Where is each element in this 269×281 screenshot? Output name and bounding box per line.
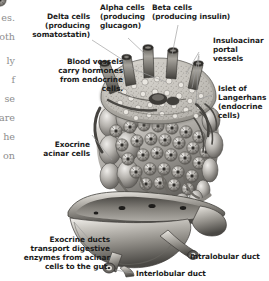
label-delta-cells: Delta cells (producing somatostatin) — [8, 12, 90, 39]
label-exocrine-ducts: Exocrine ducts transport digestive enzym… — [0, 235, 110, 271]
pancreas-figure: es. oth ly f se are he on — [0, 0, 269, 281]
label-blood-vessels: Blood vessels carry hormones from endocr… — [8, 57, 123, 93]
label-beta-cells: Beta cells (producing insulin) — [152, 3, 242, 21]
label-alpha-cells: Alpha cells (producing glucagon) — [100, 3, 160, 30]
label-intralobular-duct: Intralobular duct — [190, 252, 269, 261]
insuloacinar-portal-vessels — [194, 104, 217, 152]
central-vessel-opening — [149, 94, 179, 106]
bleed-fragment: he — [3, 131, 15, 142]
duct-openings — [94, 204, 208, 215]
label-insuloacinar-portal-vessels: Insuloacinar portal vessels — [213, 36, 269, 63]
label-islet-of-langerhans: Islet of Langerhans (endocrine cells) — [218, 84, 269, 120]
bleed-fragment: are — [0, 112, 15, 123]
label-exocrine-acinar-cells: Exocrine acinar cells — [18, 140, 90, 158]
endocrine-cell-stipple — [117, 76, 203, 120]
label-interlobular-duct: Interlobular duct — [136, 269, 226, 278]
bleed-fragment: on — [3, 150, 15, 161]
bleed-fragment: se — [4, 93, 15, 104]
